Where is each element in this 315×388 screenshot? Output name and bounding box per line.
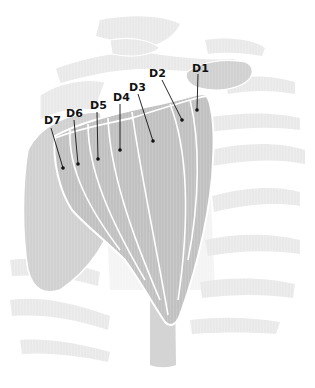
label-d5-text: D5 xyxy=(90,99,107,112)
dot-d5 xyxy=(96,157,100,161)
label-d1-text: D1 xyxy=(192,62,209,75)
rib-3 xyxy=(212,188,300,212)
deltoid-diagram: D1 D2 D3 D4 D5 D6 D7 xyxy=(0,0,315,388)
rib-2 xyxy=(210,144,305,166)
deltoid-muscle xyxy=(54,94,213,325)
dot-d7 xyxy=(61,166,65,170)
rib-4 xyxy=(205,235,300,256)
dot-d3 xyxy=(151,139,155,143)
label-d7-text: D7 xyxy=(44,114,61,127)
dot-d4 xyxy=(118,148,122,152)
spine-of-scapula xyxy=(205,38,265,56)
label-d2-text: D2 xyxy=(149,67,166,80)
label-d4-text: D4 xyxy=(113,91,130,104)
dot-d2 xyxy=(180,118,184,122)
dot-d6 xyxy=(76,162,80,166)
rib-left-2 xyxy=(10,299,110,330)
rib-6 xyxy=(190,318,280,334)
rib-left-3 xyxy=(20,340,110,362)
label-d3-text: D3 xyxy=(129,81,146,94)
rib-1 xyxy=(205,114,300,133)
label-d6-text: D6 xyxy=(66,107,83,120)
dot-d1 xyxy=(195,108,199,112)
